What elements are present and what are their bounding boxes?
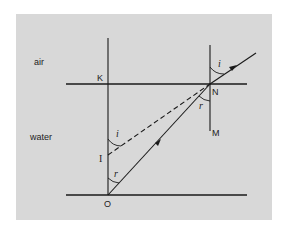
label-angle-r-O: r	[114, 168, 118, 179]
label-N: N	[212, 87, 219, 97]
label-angle-i-I: i	[116, 128, 119, 139]
angle-arc-i-I	[108, 139, 121, 146]
label-angle-i-top: i	[218, 58, 221, 69]
label-M: M	[212, 128, 220, 138]
label-angle-r-N: r	[199, 100, 203, 111]
label-I: I	[99, 153, 102, 164]
angle-arc-i-top	[210, 67, 224, 74]
refracted-ray-ON	[108, 84, 210, 195]
apparent-ray-IN	[108, 84, 210, 155]
label-K: K	[97, 73, 103, 83]
label-O: O	[104, 199, 111, 209]
label-water: water	[29, 132, 52, 142]
label-air: air	[34, 57, 44, 67]
refraction-diagram: air water K N M I O i r i r	[0, 0, 286, 234]
